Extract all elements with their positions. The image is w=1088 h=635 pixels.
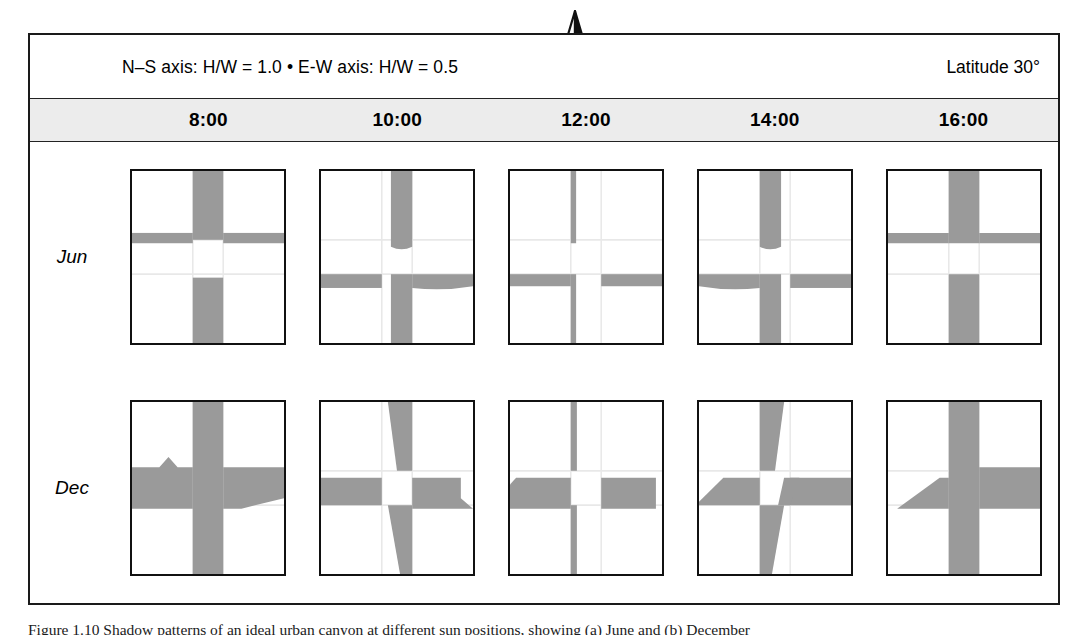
figure-frame: N–S axis: H/W = 1.0 • E-W axis: H/W = 0.…: [28, 33, 1060, 605]
panel-cell-jun-1200: [492, 169, 681, 345]
latitude-annotation: Latitude 30°: [946, 35, 1040, 99]
shadow-panel: [130, 400, 286, 576]
panel-cell-dec-1400: [680, 400, 869, 576]
time-header-2: 12:00: [492, 99, 681, 141]
panel-cell-jun-1400: [680, 169, 869, 345]
panel-row-dec: Dec: [30, 373, 1058, 604]
shadow-panel: [508, 169, 664, 345]
shadow-panel: [319, 169, 475, 345]
panel-cell-dec-1000: [303, 400, 492, 576]
shadow-panel: [886, 169, 1042, 345]
panel-row-jun: Jun: [30, 142, 1058, 373]
panel-cell-dec-1200: [492, 400, 681, 576]
shadow-panel: [697, 400, 853, 576]
shadow-panel: [130, 169, 286, 345]
shadow-panel: [508, 400, 664, 576]
panel-grid: Jun: [30, 142, 1058, 603]
annotation-row: N–S axis: H/W = 1.0 • E-W axis: H/W = 0.…: [30, 35, 1058, 99]
shadow-panel: [886, 400, 1042, 576]
shadow-panel: [319, 400, 475, 576]
figure-caption: Figure 1.10 Shadow patterns of an ideal …: [28, 620, 1060, 635]
panel-cell-jun-0800: [114, 169, 303, 345]
header-corner-spacer: [30, 99, 114, 141]
row-label-dec: Dec: [30, 477, 114, 499]
panel-cell-jun-1000: [303, 169, 492, 345]
panel-cell-dec-1600: [869, 400, 1058, 576]
panel-cell-jun-1600: [869, 169, 1058, 345]
figure-root: N–S axis: H/W = 1.0 • E-W axis: H/W = 0.…: [0, 0, 1088, 635]
time-header-row: 8:00 10:00 12:00 14:00 16:00: [30, 99, 1058, 142]
shadow-panel: [697, 169, 853, 345]
time-header-3: 14:00: [680, 99, 869, 141]
time-header-0: 8:00: [114, 99, 303, 141]
time-header-4: 16:00: [869, 99, 1058, 141]
geometry-annotation: N–S axis: H/W = 1.0 • E-W axis: H/W = 0.…: [30, 35, 550, 99]
panel-cell-dec-0800: [114, 400, 303, 576]
row-label-jun: Jun: [30, 246, 114, 268]
time-header-1: 10:00: [303, 99, 492, 141]
